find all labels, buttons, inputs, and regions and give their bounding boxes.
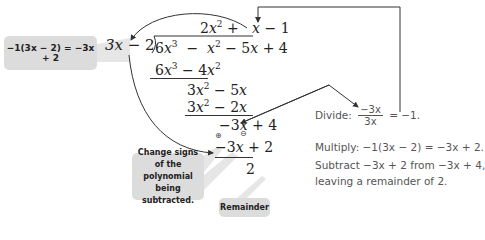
divisor: 3x − 2 — [105, 38, 155, 53]
divide-label: Divide: — [315, 109, 352, 121]
change-signs-text: Change signs of the polynomial being sub… — [135, 147, 201, 207]
quotient: 2x2 + x − 1 — [200, 20, 290, 35]
remainder-callout: Remainder — [219, 198, 270, 217]
step1-subtract: 6x3 − 4x2 — [155, 62, 221, 77]
remainder-callout-text: Remainder — [220, 203, 269, 212]
remainder-value: 2 — [246, 162, 255, 176]
subtract-note-line1: Subtract −3x + 2 from −3x + 4, — [315, 160, 485, 171]
change-signs-callout: Change signs of the polynomial being sub… — [132, 153, 204, 200]
subtract-note-line2: leaving a remainder of 2. — [315, 176, 447, 187]
divide-numerator: −3x — [358, 104, 383, 116]
multiply-note: Multiply: −1(3x − 2) = −3x + 2. — [315, 142, 484, 153]
divide-note: Divide: −3x 3x = −1. — [315, 104, 420, 127]
step2-result: −3x + 4 — [219, 118, 277, 132]
dividend: 6x3 − x2 − 5x + 4 — [155, 40, 288, 55]
step2-subtract: 3x2 − 2x — [187, 99, 247, 114]
step3-subtract: −3x + 2 — [215, 140, 273, 154]
minus-sign-mark: ⊖ — [240, 129, 247, 138]
divide-denominator: 3x — [358, 116, 383, 127]
step1-rule — [150, 78, 208, 79]
step1-result: 3x2 − 5x — [187, 82, 247, 97]
divide-result: = −1. — [389, 109, 420, 121]
distribute-callout: −1(3x − 2) = −3x + 2 — [4, 36, 97, 70]
distribute-callout-text: −1(3x − 2) = −3x + 2 — [4, 43, 97, 63]
step2-rule — [185, 115, 253, 116]
divide-fraction: −3x 3x — [358, 104, 383, 127]
step3-rule — [215, 157, 253, 158]
